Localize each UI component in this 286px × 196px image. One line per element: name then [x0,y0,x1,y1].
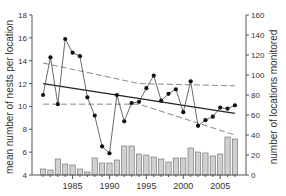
data-point [196,124,200,128]
y-tick-label: 14 [18,57,27,66]
bar [77,169,82,175]
data-point [41,93,45,97]
data-point [63,37,67,41]
y-axis-label: mean number of nests per location [4,20,15,174]
data-point [93,113,97,117]
data-point [181,110,185,114]
data-point [144,86,148,90]
data-point [174,87,178,91]
trend-line [43,84,235,114]
y-tick-label: 4 [23,171,28,180]
data-point [159,99,163,103]
bar [210,156,215,175]
bar-series-locations [40,137,237,175]
data-point [70,51,74,55]
bar [136,154,141,175]
y2-tick-label: 100 [251,71,265,80]
bar [203,153,208,175]
y-tick-label: 8 [23,125,28,134]
data-point [203,118,207,122]
y2-tick-label: 20 [251,151,260,160]
data-point [48,55,52,59]
y2-tick-label: 0 [251,171,256,180]
y2-tick-label: 120 [251,51,265,60]
chart-container: 4681012141618020406080100120140160198519… [0,0,286,196]
data-point [189,79,193,83]
bar [129,146,134,175]
y2-axis-label: number of locations monitored [268,30,279,165]
data-point [130,101,134,105]
y2-tick-label: 60 [251,111,260,120]
data-point [115,93,119,97]
y-tick-label: 16 [18,34,27,43]
x-tick-label: 2005 [210,181,230,191]
y2-tick-label: 80 [251,91,260,100]
y2-tick-label: 140 [251,31,265,40]
bar [195,152,200,175]
trend-lines [43,63,235,135]
bar [232,139,237,175]
bar [173,158,178,175]
x-tick-label: 2000 [173,181,193,191]
data-point [100,144,104,148]
x-tick-label: 1995 [136,181,156,191]
data-point [225,107,229,111]
bar [166,162,171,175]
data-point [233,103,237,107]
x-tick-label: 1990 [99,181,119,191]
y-tick-label: 12 [18,80,27,89]
y-tick-label: 6 [23,148,28,157]
bar [107,163,112,175]
nests-line [43,39,235,153]
y2-tick-label: 40 [251,131,260,140]
bar [144,155,149,175]
x-tick-label: 1985 [63,181,83,191]
data-point [56,102,60,106]
bar [188,148,193,175]
bar [114,160,119,175]
bar [158,159,163,175]
confidence-band [43,63,235,86]
data-point [166,92,170,96]
line-series-nests [41,37,237,155]
bar [225,137,230,175]
bar [55,159,60,175]
data-point [78,54,82,58]
bar [122,146,127,175]
bar [218,154,223,175]
data-point [85,95,89,99]
bar [151,157,156,175]
bar [40,169,45,175]
y2-tick-label: 160 [251,11,265,20]
bar [70,165,75,175]
data-point [122,119,126,123]
bar [92,158,97,175]
bar [181,158,186,175]
y-tick-label: 18 [18,11,27,20]
data-point [218,105,222,109]
bar [48,170,53,175]
data-point [152,73,156,77]
bar [99,163,104,175]
data-point [211,115,215,119]
data-point [137,100,141,104]
bar [63,164,68,175]
y-tick-label: 10 [18,102,27,111]
data-point [107,151,111,155]
